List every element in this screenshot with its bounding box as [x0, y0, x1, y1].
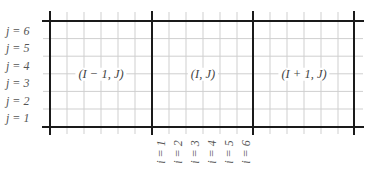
col-label-i1: i = 1	[155, 140, 167, 163]
row-label-j2: j = 2	[6, 95, 29, 107]
row-label-j1: j = 1	[6, 112, 29, 124]
grid-diagram	[0, 0, 372, 171]
col-label-i3: i = 3	[189, 140, 201, 163]
cell-label-i: (I, J)	[188, 68, 218, 81]
row-label-j6: j = 6	[6, 25, 29, 37]
cell-label-i-plus-1: (I + 1, J)	[278, 68, 329, 81]
col-label-i6: i = 6	[240, 140, 252, 163]
row-label-j5: j = 5	[6, 42, 29, 54]
row-label-j3: j = 3	[6, 77, 29, 89]
col-label-i4: i = 4	[206, 140, 218, 163]
col-label-i2: i = 2	[172, 140, 184, 163]
row-label-j4: j = 4	[6, 60, 29, 72]
cell-label-i-minus-1: (I − 1, J)	[75, 68, 126, 81]
col-label-i5: i = 5	[223, 140, 235, 163]
